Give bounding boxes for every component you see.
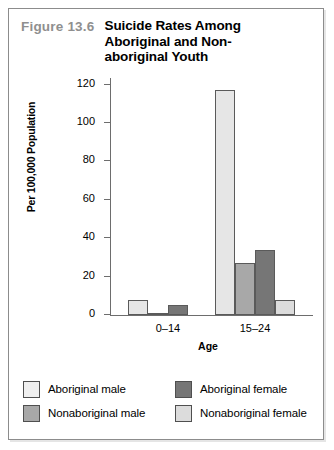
chart-bar: [128, 300, 148, 315]
legend-swatch: [23, 381, 40, 398]
chart-bar: [275, 300, 295, 315]
chart-legend: Aboriginal maleAboriginal femaleNonabori…: [9, 377, 323, 425]
legend-swatch: [23, 405, 40, 422]
chart-bar: [215, 90, 235, 315]
chart-bar: [235, 263, 255, 315]
figure-panel: Figure 13.6 Suicide Rates Among Aborigin…: [8, 8, 324, 440]
figure-title-line-3: aboriginal Youth: [104, 49, 240, 65]
x-axis-title: Age: [110, 340, 306, 352]
y-axis-tick-label: 100: [77, 115, 95, 127]
y-axis-tick-label: 20: [83, 269, 95, 281]
figure-title-line-2: Aboriginal and Non-: [104, 34, 240, 50]
chart-bar: [168, 305, 188, 315]
legend-item: Aboriginal male: [23, 381, 175, 398]
legend-label: Aboriginal female: [200, 383, 287, 395]
legend-label: Nonaboriginal female: [200, 407, 307, 419]
y-axis-tick: 40: [104, 237, 110, 238]
legend-item: Nonaboriginal male: [23, 405, 175, 422]
chart-plot-area: Per 100,000 Population 020406080100120 0…: [9, 67, 323, 357]
figure-number: Figure 13.6: [21, 18, 94, 67]
y-axis-tick: 60: [104, 199, 110, 200]
chart-axes: 020406080100120 0–1415–24: [110, 78, 306, 316]
y-axis-tick-label: 60: [83, 192, 95, 204]
legend-label: Nonaboriginal male: [48, 407, 145, 419]
legend-item: Nonaboriginal female: [175, 405, 309, 422]
y-axis-tick-label: 0: [89, 307, 95, 319]
legend-label: Aboriginal male: [48, 383, 126, 395]
y-axis-tick: 20: [104, 276, 110, 277]
figure-header: Figure 13.6 Suicide Rates Among Aborigin…: [9, 9, 323, 67]
y-axis-line: [110, 78, 111, 316]
chart-bar: [148, 313, 168, 315]
legend-item: Aboriginal female: [175, 381, 309, 398]
y-axis-tick-label: 40: [83, 230, 95, 242]
y-axis-tick-label: 80: [83, 153, 95, 165]
chart-bar: [255, 250, 275, 315]
figure-title: Suicide Rates Among Aboriginal and Non- …: [104, 18, 240, 67]
y-axis-tick: 100: [104, 122, 110, 123]
y-axis-tick-label: 120: [77, 77, 95, 89]
legend-swatch: [175, 381, 192, 398]
y-axis-tick: 120: [104, 84, 110, 85]
legend-swatch: [175, 405, 192, 422]
x-axis-line: [110, 315, 313, 316]
y-axis-tick: 0: [104, 314, 110, 315]
y-axis-title: Per 100,000 Population: [25, 77, 37, 237]
x-axis-category-label: 15–24: [203, 322, 307, 334]
figure-title-line-1: Suicide Rates Among: [104, 18, 240, 34]
y-axis-tick: 80: [104, 160, 110, 161]
